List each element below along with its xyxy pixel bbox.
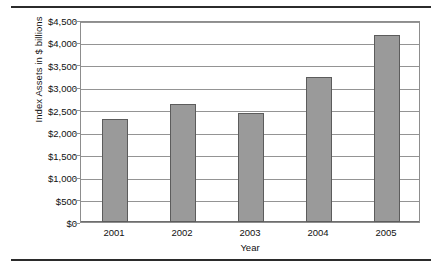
y-axis-tick-label: $1,000: [7, 173, 77, 184]
bar: [170, 104, 196, 222]
y-axis-tick-label: $500: [7, 195, 77, 206]
x-axis-tick-label: 2003: [220, 227, 280, 238]
bar: [306, 77, 332, 222]
x-axis-tick-label: 2005: [356, 227, 416, 238]
x-axis-tick-label: 2002: [152, 227, 212, 238]
y-axis-tick-label: $0: [7, 218, 77, 229]
bar-chart-figure: Index Assets in $ billions $0$500$1,000$…: [0, 10, 442, 256]
bar: [374, 35, 400, 222]
plot-inner: [81, 22, 419, 222]
bar: [102, 119, 128, 222]
x-axis-tick-label: 2001: [84, 227, 144, 238]
y-axis-tick-label: $4,500: [7, 16, 77, 27]
y-axis-tick-label: $3,500: [7, 60, 77, 71]
bar: [238, 113, 264, 222]
bar-series: [81, 22, 419, 222]
x-axis-title: Year: [80, 242, 420, 253]
y-axis-tick-label: $1,500: [7, 150, 77, 161]
y-axis-tick-label: $2,000: [7, 128, 77, 139]
document-rule-top: [11, 6, 431, 8]
plot-area: [80, 21, 420, 223]
y-axis-tick-label: $2,500: [7, 105, 77, 116]
x-axis-tick-label: 2004: [288, 227, 348, 238]
y-axis-tick-label: $3,000: [7, 83, 77, 94]
document-rule-bottom: [11, 259, 431, 261]
y-axis-tick-label: $4,000: [7, 38, 77, 49]
